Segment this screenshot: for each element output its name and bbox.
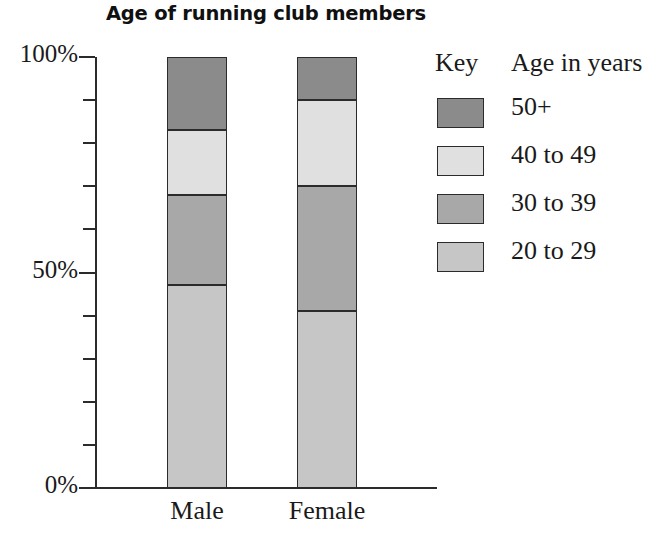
legend-item-label: 40 to 49 (511, 140, 596, 170)
x-axis-label-female: Female (257, 496, 397, 526)
legend-item-label: 30 to 39 (511, 188, 596, 218)
legend-item-label: 20 to 29 (511, 236, 596, 266)
bar-segment-male-40-to-49[interactable] (167, 130, 227, 195)
y-axis-tick-label: 100% (0, 40, 78, 68)
y-axis-tick-label: 50% (0, 256, 78, 284)
bar-segment-female-40-to-49[interactable] (297, 100, 357, 186)
bar-segment-male-20-to-29[interactable] (167, 285, 227, 488)
legend-swatch-icon (437, 146, 484, 176)
x-axis-line (95, 487, 437, 489)
legend-item[interactable]: 20 to 29 (435, 236, 670, 284)
legend: Key Age in years 50+40 to 4930 to 3920 t… (435, 48, 670, 284)
y-axis-labels: 100%50%0% (0, 0, 78, 546)
y-tick-minor (83, 142, 95, 144)
x-axis-label-male: Male (127, 496, 267, 526)
y-tick-minor (83, 185, 95, 187)
plot-area: 100%50%0% Male Female (0, 0, 450, 546)
y-tick-minor (83, 315, 95, 317)
bar-segment-female-20-to-29[interactable] (297, 311, 357, 488)
y-tick-major (79, 487, 95, 489)
y-tick-major (79, 56, 95, 58)
legend-item[interactable]: 40 to 49 (435, 140, 670, 188)
y-tick-minor (83, 99, 95, 101)
legend-item[interactable]: 50+ (435, 92, 670, 140)
y-axis-line (95, 57, 97, 489)
bar-segment-male-30-to-39[interactable] (167, 195, 227, 286)
bar-segment-female-30-to-39[interactable] (297, 186, 357, 311)
legend-swatch-icon (437, 242, 484, 272)
legend-key-header: Key (435, 48, 478, 78)
legend-swatch-icon (437, 98, 484, 128)
legend-item[interactable]: 30 to 39 (435, 188, 670, 236)
legend-item-label: 50+ (511, 92, 552, 122)
legend-header: Key Age in years (435, 48, 670, 92)
bar-segment-female-50plus[interactable] (297, 57, 357, 100)
y-tick-major (79, 272, 95, 274)
y-tick-minor (83, 358, 95, 360)
y-axis-tick-label: 0% (0, 471, 78, 499)
legend-items: 50+40 to 4930 to 3920 to 29 (435, 92, 670, 284)
bar-segment-male-50plus[interactable] (167, 57, 227, 130)
legend-value-header: Age in years (511, 48, 642, 78)
y-tick-minor (83, 444, 95, 446)
y-tick-minor (83, 228, 95, 230)
y-tick-minor (83, 401, 95, 403)
chart-container: Age of running club members 100%50%0% Ma… (0, 0, 670, 546)
legend-swatch-icon (437, 194, 484, 224)
